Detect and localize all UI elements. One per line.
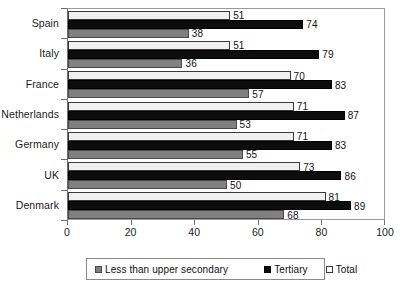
bar-tertiary	[68, 80, 332, 89]
chart-legend: Less than upper secondaryTertiaryTotal	[86, 258, 325, 280]
value-tick	[321, 220, 322, 225]
category-label: Italy	[0, 47, 59, 59]
value-tick	[258, 220, 259, 225]
bar-lower	[68, 180, 227, 189]
bar-total	[68, 41, 230, 50]
bar-tertiary	[68, 171, 341, 180]
bar-tertiary	[68, 201, 351, 210]
value-tick	[384, 220, 385, 225]
value-tick-label: 100	[376, 226, 394, 238]
value-axis-labels: 020406080100	[67, 226, 385, 242]
legend-label: Total	[336, 264, 358, 275]
legend-item-tertiary[interactable]: Tertiary	[264, 264, 308, 275]
bar-value-label: 68	[287, 209, 298, 220]
category-label: Denmark	[0, 199, 59, 211]
bar-tertiary	[68, 111, 345, 120]
category-label: Netherlands	[0, 108, 59, 120]
category-label: UK	[0, 169, 59, 181]
value-tick	[67, 220, 68, 225]
bar-tertiary	[68, 141, 332, 150]
bar-total	[68, 132, 294, 141]
legend-label: Less than upper secondary	[105, 264, 228, 275]
bar-value-label: 89	[354, 200, 365, 211]
bar-value-label: 74	[306, 19, 317, 30]
category-label: France	[0, 78, 59, 90]
bar-total	[68, 192, 326, 201]
category-axis-labels: SpainItalyFranceNetherlandsGermanyUKDenm…	[0, 8, 63, 220]
bar-lower	[68, 210, 284, 219]
value-tick-label: 60	[252, 226, 264, 238]
value-tick-label: 0	[64, 226, 70, 238]
bar-value-label: 83	[335, 79, 346, 90]
legend-swatch-icon	[95, 266, 102, 273]
bar-lower	[68, 150, 243, 159]
bar-value-label: 83	[335, 140, 346, 151]
value-tick-label: 40	[188, 226, 200, 238]
category-label: Spain	[0, 17, 59, 29]
category-label: Germany	[0, 138, 59, 150]
bar-lower	[68, 89, 249, 98]
bar-total	[68, 71, 291, 80]
bar-total	[68, 11, 230, 20]
bar-value-label: 55	[246, 149, 257, 160]
plot-area: 5174385179367083577187537183557386508189…	[67, 8, 385, 220]
bar-lower	[68, 59, 182, 68]
value-tick-label: 20	[125, 226, 137, 238]
bar-lower	[68, 29, 189, 38]
legend-item-lower[interactable]: Less than upper secondary	[95, 264, 228, 275]
bar-value-label: 38	[192, 28, 203, 39]
bar-value-label: 87	[348, 110, 359, 121]
bar-value-label: 53	[240, 119, 251, 130]
bar-value-label: 50	[230, 179, 241, 190]
bar-value-label: 36	[185, 58, 196, 69]
bar-value-label: 79	[322, 49, 333, 60]
value-tick	[131, 220, 132, 225]
bar-value-label: 86	[344, 170, 355, 181]
legend-item-total[interactable]: Total	[326, 264, 358, 275]
legend-label: Tertiary	[274, 264, 308, 275]
bar-total	[68, 102, 294, 111]
bar-chart: SpainItalyFranceNetherlandsGermanyUKDenm…	[0, 0, 406, 289]
value-tick-label: 80	[316, 226, 328, 238]
bar-lower	[68, 120, 237, 129]
bar-tertiary	[68, 20, 303, 29]
legend-swatch-icon	[264, 266, 271, 273]
bar-total	[68, 162, 300, 171]
value-tick	[194, 220, 195, 225]
legend-swatch-icon	[326, 266, 333, 273]
bar-value-label: 57	[252, 88, 263, 99]
